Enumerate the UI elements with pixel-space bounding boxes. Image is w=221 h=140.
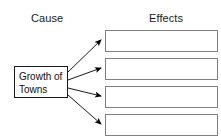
- clipped-top-text: [10, 0, 160, 2]
- cause-box-label: Growth of Towns: [19, 70, 67, 96]
- arrow-to-effect-3: [68, 88, 101, 96]
- graphic-organizer-canvas: Cause Effects Growth of Towns: [0, 0, 221, 140]
- effect-box-3[interactable]: [105, 86, 218, 108]
- arrow-to-effect-1: [68, 40, 101, 72]
- effect-box-1[interactable]: [105, 30, 218, 52]
- column-header-effects: Effects: [149, 12, 183, 24]
- arrow-to-effect-2: [68, 68, 101, 80]
- arrow-to-effect-4: [68, 95, 101, 124]
- effect-box-2[interactable]: [105, 58, 218, 80]
- column-header-cause: Cause: [31, 12, 63, 24]
- effect-box-4[interactable]: [105, 114, 218, 136]
- cause-box[interactable]: Growth of Towns: [14, 66, 68, 98]
